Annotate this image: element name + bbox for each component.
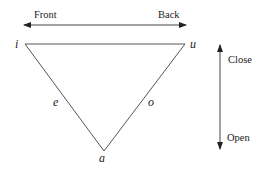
- vowel-triangle-diagram: Front Back i u a e o Close Open: [0, 0, 267, 170]
- back-label: Back: [158, 9, 180, 20]
- vowel-e-label: e: [53, 95, 59, 109]
- open-label: Open: [227, 132, 250, 143]
- front-label: Front: [34, 9, 57, 20]
- vowel-a-label: a: [99, 151, 105, 165]
- vowel-i-label: i: [15, 37, 18, 51]
- close-label: Close: [228, 54, 252, 65]
- vowel-triangle: [25, 44, 185, 151]
- vowel-u-label: u: [190, 37, 196, 51]
- vowel-o-label: o: [148, 95, 154, 109]
